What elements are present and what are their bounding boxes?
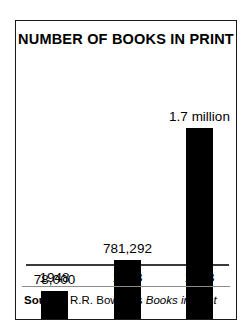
source-publication: Books in Print — [146, 294, 217, 306]
source-label: Source: — [24, 294, 67, 306]
source-divider — [22, 286, 230, 287]
x-tick-label-0: 1948 — [39, 270, 69, 285]
x-tick-label-2: 1998 — [184, 270, 214, 285]
plot-area: 78,000 781,292 1.7 million 1948 1988 199… — [16, 21, 236, 319]
bar-value-label-1: 781,292 — [103, 241, 152, 256]
bar-value-label-2: 1.7 million — [169, 109, 230, 124]
source-publisher: R.R. Bowker's — [70, 294, 143, 306]
source-note: Source: R.R. Bowker's Books in Print — [24, 294, 217, 306]
chart-figure: NUMBER OF BOOKS IN PRINT 78,000 781,292 … — [15, 20, 237, 320]
x-tick-label-1: 1988 — [112, 270, 142, 285]
bar-2 — [186, 128, 213, 319]
bar-1 — [114, 260, 141, 319]
